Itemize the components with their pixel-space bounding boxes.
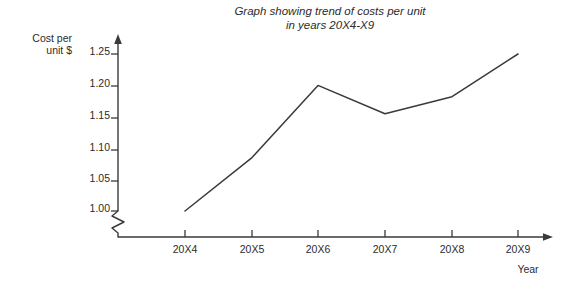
plot-area: [0, 0, 578, 285]
x-axis: [118, 230, 553, 241]
x-axis-arrow-icon: [543, 233, 553, 241]
y-axis-arrow-icon: [114, 34, 122, 44]
chart-figure: Graph showing trend of costs per unit in…: [0, 0, 578, 285]
data-series-line: [185, 54, 518, 211]
y-axis: [111, 34, 122, 211]
axis-break-zigzag-icon: [112, 211, 124, 237]
